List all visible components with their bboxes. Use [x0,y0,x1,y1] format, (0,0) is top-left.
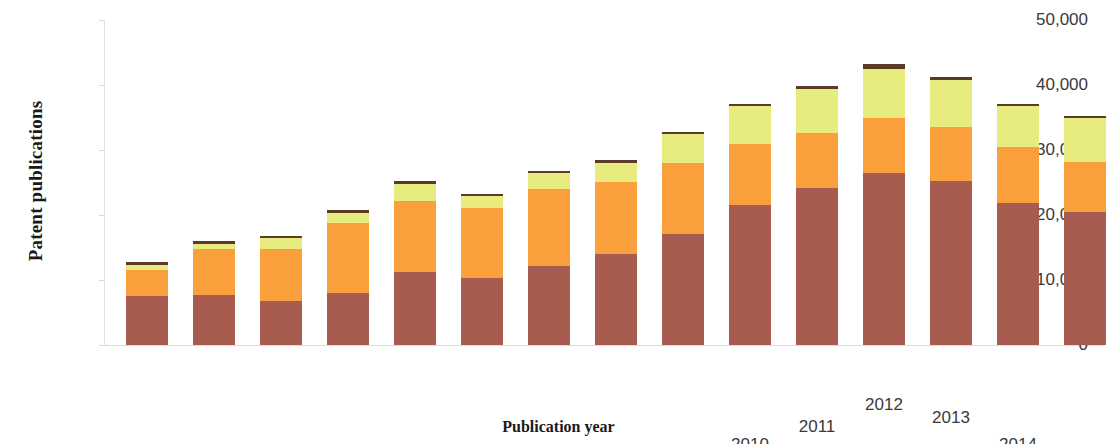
bar-segment [595,254,637,345]
bar-group[interactable]: 2004 [327,210,369,345]
bar-segment [193,249,235,295]
bar-segment [997,106,1039,147]
bar-segment [528,189,570,266]
x-axis-line [102,345,1104,346]
bar-segment [863,173,905,345]
bar-group[interactable]: 2003 [260,236,302,345]
bar-segment [729,205,771,345]
bar-segment [126,270,168,296]
bar-group[interactable]: 2011 [796,86,838,345]
bar-group[interactable]: 2008 [595,160,637,345]
bar-segment [863,69,905,117]
bar-segment [461,196,503,208]
bar-group[interactable]: 2014 [997,104,1039,345]
y-axis-tick-mark [99,345,104,346]
bar-group[interactable]: 2013 [930,77,972,345]
bar-segment [327,293,369,345]
bar-segment [461,208,503,278]
bar-segment [260,238,302,248]
y-axis-title: Patent publications [25,61,47,301]
bars-container: 2001200220032004200520062007200820092010… [104,20,1104,345]
bar-group[interactable]: 2002 [193,241,235,345]
bar-segment [528,266,570,345]
bar-segment [260,249,302,301]
bar-segment [863,118,905,174]
x-axis-title: Publication year [0,418,1117,436]
bar-group[interactable]: 2007 [528,171,570,345]
stacked-bar-chart: Patent publications 010,00020,00030,0004… [0,0,1117,444]
bar-segment [528,173,570,189]
bar-segment [796,133,838,188]
bar-segment [260,301,302,345]
bar-segment [595,182,637,254]
bar-segment [1064,212,1106,345]
bar-segment [930,80,972,127]
bar-group[interactable]: 2012 [863,64,905,345]
bar-segment [126,296,168,345]
bar-segment [394,184,436,201]
bar-segment [1064,162,1106,213]
bar-segment [461,278,503,345]
bar-group[interactable]: 2001 [126,262,168,345]
bar-segment [662,163,704,234]
bar-segment [997,147,1039,203]
bar-segment [394,201,436,273]
bar-group[interactable]: 2009 [662,132,704,345]
bar-group[interactable]: 2015 [1064,116,1106,345]
bar-segment [662,234,704,345]
bar-segment [729,144,771,205]
bar-segment [327,213,369,223]
bar-segment [796,188,838,345]
bar-group[interactable]: 2010 [729,104,771,345]
bar-segment [327,223,369,293]
bar-segment [662,134,704,163]
bar-segment [1064,118,1106,162]
bar-group[interactable]: 2005 [394,181,436,345]
bar-group[interactable]: 2006 [461,194,503,345]
bar-segment [930,181,972,345]
bar-segment [595,163,637,182]
bar-segment [729,106,771,144]
x-axis-tick-label: 2014 [975,435,1061,444]
bar-segment [997,203,1039,345]
plot-area: 010,00020,00030,00040,00050,000 20012002… [104,20,1104,345]
bar-segment [796,89,838,133]
bar-segment [193,295,235,345]
bar-segment [930,127,972,181]
bar-segment [394,272,436,345]
